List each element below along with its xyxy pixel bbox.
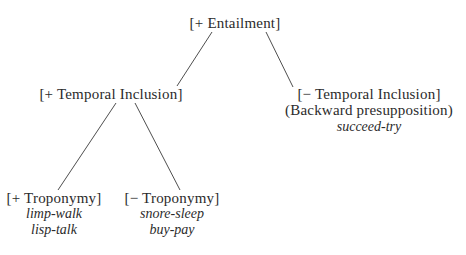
node-label: [− Temporal Inclusion] [285,86,453,102]
node-entailment: [+ Entailment] [190,15,281,31]
edge-entailment-to-temporal-inclusion-plus [177,32,212,86]
node-temporal-inclusion-minus: [− Temporal Inclusion] (Backward presupp… [285,86,453,135]
node-sublabel: (Backward presupposition) [285,102,453,118]
example-pair: succeed-try [285,119,453,135]
example-pair: lisp-talk [7,222,102,238]
node-troponymy-plus: [+ Troponymy] limp-walk lisp-talk [7,190,102,238]
example-pair: limp-walk [7,206,102,222]
edge-entailment-to-temporal-inclusion-minus [266,32,293,87]
example-pair: snore-sleep [125,206,220,222]
node-label: [+ Temporal Inclusion] [39,86,182,102]
edge-temporal-inclusion-plus-to-troponymy-plus [58,103,116,190]
node-temporal-inclusion-plus: [+ Temporal Inclusion] [39,86,182,102]
entailment-tree-diagram: [+ Entailment] [+ Temporal Inclusion] [−… [0,0,466,255]
node-troponymy-minus: [− Troponymy] snore-sleep buy-pay [125,190,220,238]
node-label: [− Troponymy] [125,190,220,206]
edge-temporal-inclusion-plus-to-troponymy-minus [135,103,180,190]
node-label: [+ Entailment] [190,15,281,31]
example-pair: buy-pay [125,222,220,238]
node-label: [+ Troponymy] [7,190,102,206]
